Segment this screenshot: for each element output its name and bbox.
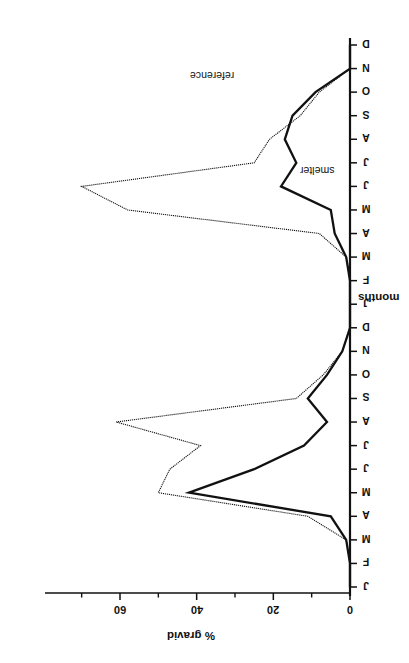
month-tick-label: D xyxy=(359,38,373,50)
month-tick-label: J xyxy=(359,156,373,168)
month-tick-label: F xyxy=(359,274,373,286)
month-tick-label: M xyxy=(359,486,373,498)
value-tick-label: 20 xyxy=(263,604,283,616)
month-tick-label: A xyxy=(359,509,373,521)
month-tick-label: A xyxy=(359,132,373,144)
series-line-smelter xyxy=(189,45,350,587)
chart-plot-area xyxy=(0,0,409,663)
month-tick-label: M xyxy=(359,533,373,545)
month-tick-label: J xyxy=(359,439,373,451)
value-tick-label: 60 xyxy=(110,604,130,616)
series-line-reference xyxy=(82,45,350,587)
month-tick-label: J xyxy=(359,580,373,592)
month-tick-label: N xyxy=(359,62,373,74)
figure-canvas: JFMAMJJASONDJFMAMJJASOND 0204060 months … xyxy=(0,0,409,663)
axis-title-percent-gravid: % gravid xyxy=(167,630,215,642)
month-tick-label: D xyxy=(359,321,373,333)
month-tick-label: S xyxy=(359,109,373,121)
axis-title-months: months xyxy=(358,292,400,304)
value-tick-label: 0 xyxy=(340,604,360,616)
value-tick-marks xyxy=(82,593,350,600)
series-annotation-reference: reference xyxy=(190,70,234,82)
month-tick-label: F xyxy=(359,556,373,568)
month-tick-label: A xyxy=(359,227,373,239)
month-tick-label: M xyxy=(359,203,373,215)
month-tick-label: J xyxy=(359,462,373,474)
month-tick-label: S xyxy=(359,391,373,403)
month-tick-label: O xyxy=(359,368,373,380)
month-tick-label: N xyxy=(359,344,373,356)
month-tick-label: A xyxy=(359,415,373,427)
month-tick-label: J xyxy=(359,179,373,191)
value-tick-label: 40 xyxy=(187,604,207,616)
month-tick-label: O xyxy=(359,85,373,97)
month-tick-label: M xyxy=(359,250,373,262)
series-annotation-smelter: smelter xyxy=(300,165,334,177)
